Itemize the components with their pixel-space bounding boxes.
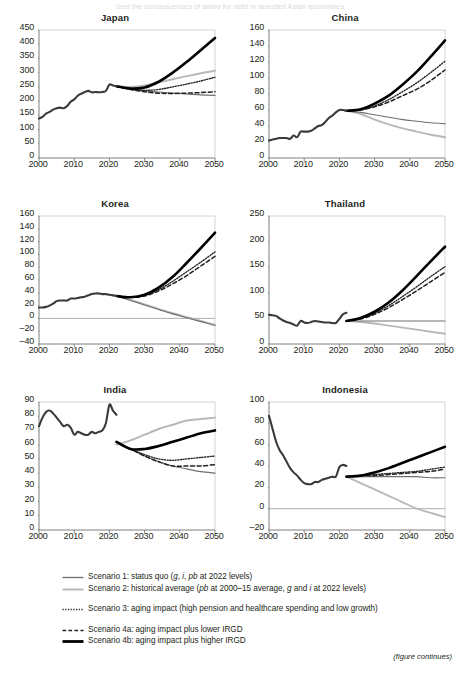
legend-line-swatch-s1	[62, 572, 84, 584]
legend-item-s2: Scenario 2: historical average (pb at 20…	[62, 584, 418, 596]
y-tick-label: 100	[250, 285, 264, 295]
series-line-history	[39, 293, 116, 307]
y-tick-label: 120	[20, 234, 34, 244]
x-axis-labels: 200020102020203020402050	[268, 345, 444, 361]
chart-panel-korea: Korea–40–2002040608010012014016020002010…	[0, 198, 230, 384]
series-line-s4a	[116, 442, 215, 466]
y-tick-label: 50	[254, 310, 264, 320]
plot-area	[38, 27, 214, 155]
legend-line-swatch-s4b	[62, 636, 84, 648]
plot-area	[38, 213, 214, 341]
y-tick-label: 400	[20, 36, 34, 46]
y-axis-labels: –20020406080100	[230, 399, 264, 527]
series-line-s3	[116, 252, 215, 297]
y-tick-label: 50	[24, 451, 34, 461]
series-line-history	[269, 313, 346, 326]
y-tick-label: 100	[250, 394, 264, 404]
y-axis-labels: 0102030405060708090	[0, 399, 34, 527]
y-tick-label: 30	[24, 479, 34, 489]
series-line-history	[39, 84, 116, 118]
y-tick-label: 250	[250, 208, 264, 218]
legend-label-s3: Scenario 3: aging impact (high pension a…	[88, 604, 418, 614]
y-tick-label: 0	[259, 501, 264, 511]
y-axis-labels: 050100150200250	[230, 213, 264, 341]
y-tick-label: 20	[24, 494, 34, 504]
y-tick-label: 100	[20, 246, 34, 256]
y-tick-label: 40	[24, 285, 34, 295]
y-tick-label: 80	[24, 259, 34, 269]
series-line-s4b	[346, 40, 445, 110]
y-tick-label: 60	[254, 437, 264, 447]
series-line-s1	[346, 111, 445, 124]
y-tick-label: 80	[254, 415, 264, 425]
plot-area	[268, 27, 444, 155]
legend-label-s4a: Scenario 4a: aging impact plus lower IRG…	[88, 625, 418, 635]
legend-label-s2: Scenario 2: historical average (pb at 20…	[88, 584, 418, 594]
legend-item-s1: Scenario 1: status quo (g, i, pb at 2022…	[62, 572, 418, 584]
series-line-history	[269, 416, 346, 484]
small-multiples-grid: Japan05010015020025030035040045020002010…	[0, 12, 460, 572]
legend-label-s4b: Scenario 4b: aging impact plus higher IR…	[88, 636, 418, 646]
figure-continues-note: (figure continues)	[393, 652, 452, 661]
chart-panel-india: India01020304050607080902000201020202030…	[0, 384, 230, 570]
y-tick-label: 40	[254, 458, 264, 468]
x-axis-labels: 200020102020203020402050	[38, 159, 214, 175]
series-line-s2	[116, 418, 215, 445]
y-axis-labels: –40–20020406080100120140160	[0, 213, 34, 341]
y-tick-label: 40	[254, 118, 264, 128]
chart-title: Japan	[0, 12, 230, 23]
y-tick-label: 200	[250, 234, 264, 244]
y-tick-label: 100	[20, 122, 34, 132]
y-tick-label: 40	[24, 465, 34, 475]
y-tick-label: 120	[250, 54, 264, 64]
y-tick-label: 300	[20, 65, 34, 75]
y-tick-label: 150	[250, 259, 264, 269]
series-line-s2	[346, 477, 445, 518]
y-tick-label: 140	[250, 38, 264, 48]
y-tick-label: 20	[254, 134, 264, 144]
series-line-history	[39, 404, 116, 435]
y-tick-label: 60	[24, 272, 34, 282]
y-axis-labels: 050100150200250300350400450	[0, 27, 34, 155]
chart-title: China	[230, 12, 460, 23]
legend-line-swatch-s2	[62, 584, 84, 596]
y-tick-label: 60	[254, 102, 264, 112]
series-line-s2	[346, 111, 445, 137]
series-line-s3	[346, 267, 445, 321]
x-axis-labels: 200020102020203020402050	[268, 531, 444, 547]
y-tick-label: 0	[29, 310, 34, 320]
series-line-s4b	[116, 233, 215, 298]
chart-panel-japan: Japan05010015020025030035040045020002010…	[0, 12, 230, 198]
x-axis-labels: 200020102020203020402050	[38, 345, 214, 361]
y-tick-label: 60	[24, 437, 34, 447]
plot-area	[268, 213, 444, 341]
y-tick-label: 20	[254, 479, 264, 489]
y-axis-labels: 020406080100120140160	[230, 27, 264, 155]
y-tick-label: 160	[250, 22, 264, 32]
series-line-s4b	[346, 447, 445, 477]
y-tick-label: 350	[20, 50, 34, 60]
series-line-s4b	[346, 247, 445, 321]
chart-title: Korea	[0, 198, 230, 209]
y-tick-label: 20	[24, 298, 34, 308]
y-tick-label: 160	[20, 208, 34, 218]
y-tick-label: 70	[24, 422, 34, 432]
y-tick-label: 50	[24, 136, 34, 146]
chart-panel-china: China02040608010012014016020002010202020…	[230, 12, 460, 198]
y-tick-label: 80	[254, 86, 264, 96]
x-axis-labels: 200020102020203020402050	[38, 531, 214, 547]
series-line-s3	[346, 61, 445, 111]
y-tick-label: 150	[20, 107, 34, 117]
y-tick-label: 10	[24, 508, 34, 518]
plot-area	[268, 399, 444, 527]
chart-title: India	[0, 384, 230, 395]
chart-legend: Scenario 1: status quo (g, i, pb at 2022…	[0, 572, 460, 644]
y-tick-label: 90	[24, 394, 34, 404]
y-tick-label: 140	[20, 221, 34, 231]
series-line-history	[269, 110, 346, 141]
y-tick-label: 80	[24, 408, 34, 418]
chart-panel-thailand: Thailand05010015020025020002010202020302…	[230, 198, 460, 384]
chart-title: Thailand	[230, 198, 460, 209]
y-tick-label: 250	[20, 79, 34, 89]
x-axis-labels: 200020102020203020402050	[268, 159, 444, 175]
